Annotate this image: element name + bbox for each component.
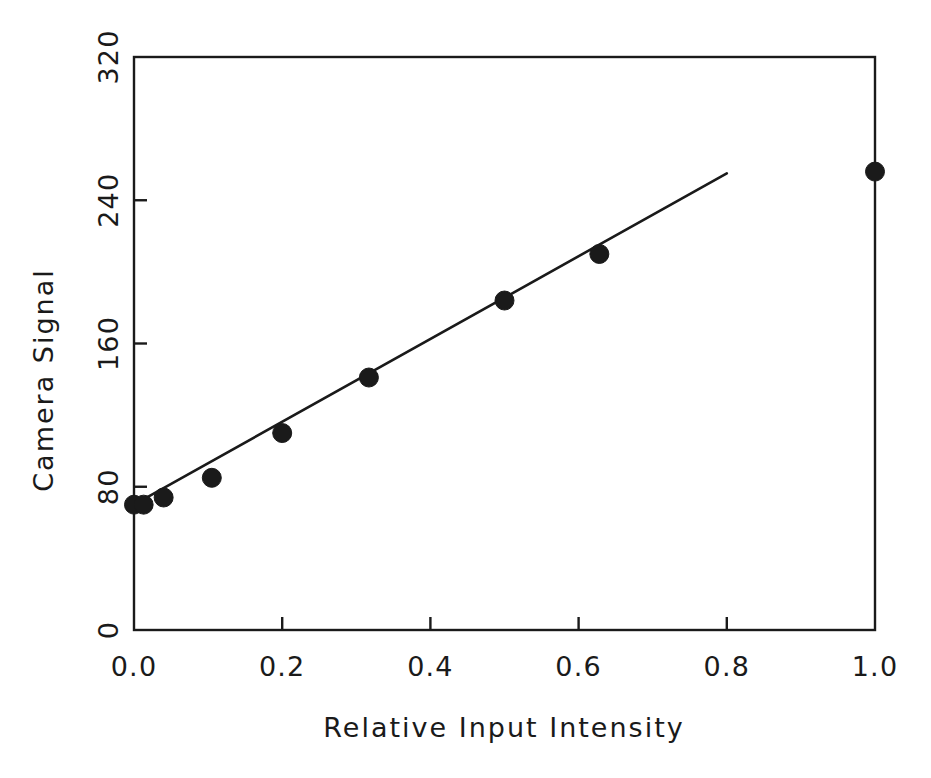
data-point (359, 368, 378, 387)
data-point (866, 162, 885, 181)
x-tick-label: 0.8 (704, 651, 751, 682)
x-tick-label: 1.0 (852, 651, 899, 682)
data-point (590, 244, 609, 263)
y-axis-title: Camera Signal (28, 268, 59, 491)
y-axis-tick-labels: 080160240320 (93, 29, 124, 639)
x-tick-label: 0.2 (259, 651, 306, 682)
y-tick-label: 240 (93, 173, 124, 228)
y-tick-label: 0 (93, 621, 124, 639)
x-tick-label: 0.4 (407, 651, 454, 682)
scatter-plot: 080160240320 0.00.20.40.60.81.0 Camera S… (0, 0, 931, 778)
plot-frame (134, 57, 875, 630)
fit-line (134, 173, 727, 504)
data-point (134, 495, 153, 514)
y-axis-ticks (134, 200, 147, 487)
data-points (125, 162, 885, 514)
chart-figure: 080160240320 0.00.20.40.60.81.0 Camera S… (0, 0, 931, 778)
data-point (273, 424, 292, 443)
x-tick-label: 0.0 (111, 651, 158, 682)
data-point (202, 468, 221, 487)
y-tick-label: 160 (93, 316, 124, 371)
x-axis-title: Relative Input Intensity (323, 712, 684, 743)
x-tick-label: 0.6 (555, 651, 602, 682)
y-tick-label: 320 (93, 29, 124, 84)
x-axis-ticks (282, 617, 727, 630)
y-tick-label: 80 (93, 468, 124, 505)
data-point (495, 291, 514, 310)
x-axis-tick-labels: 0.00.20.40.60.81.0 (111, 651, 899, 682)
data-point (154, 488, 173, 507)
